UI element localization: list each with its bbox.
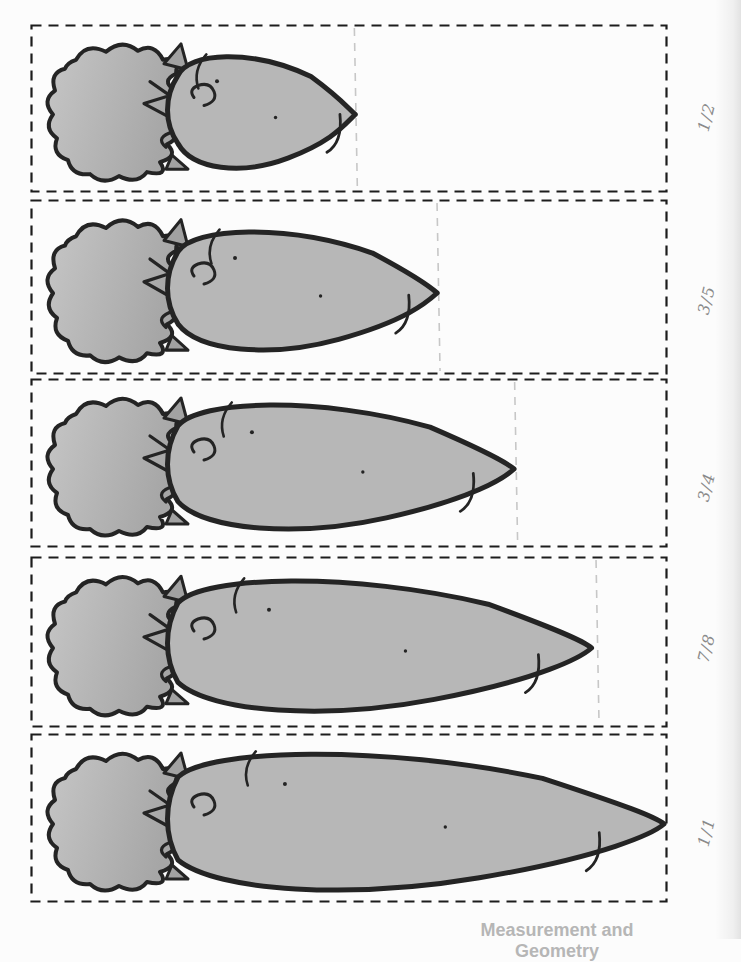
pencil-guide-line xyxy=(354,28,357,189)
footer-text: Measurement and Geometry xyxy=(438,920,676,962)
fraction-label-2: 3/5 xyxy=(677,271,735,329)
pencil-guide-line xyxy=(596,560,599,724)
speck-dot xyxy=(215,79,219,83)
speck-dot xyxy=(250,430,254,434)
carrot-box-1 xyxy=(30,24,668,193)
fraction-label-1: 1/2 xyxy=(677,88,735,146)
fraction-label-3: 3/4 xyxy=(677,458,735,516)
carrot-box-3 xyxy=(30,378,668,548)
carrot-box-4 xyxy=(30,556,668,728)
fraction-label-4: 7/8 xyxy=(677,619,735,677)
speck-dot xyxy=(361,470,364,473)
fraction-label-5: 1/1 xyxy=(677,803,735,861)
carrot-box-2 xyxy=(30,199,668,375)
speck-dot xyxy=(404,649,407,652)
carrot-box-5 xyxy=(30,733,668,903)
speck-dot xyxy=(444,825,447,828)
pencil-guide-line xyxy=(437,203,440,371)
speck-dot xyxy=(283,782,287,786)
speck-dot xyxy=(267,608,271,612)
speck-dot xyxy=(274,116,277,119)
speck-dot xyxy=(319,294,322,297)
speck-dot xyxy=(233,256,237,260)
pencil-guide-line xyxy=(515,382,518,544)
